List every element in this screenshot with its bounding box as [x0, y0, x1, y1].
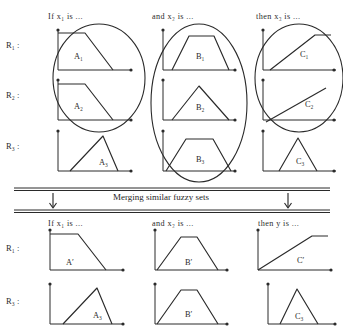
- top-plots-canvas: [0, 0, 343, 185]
- set-label-c-prime: C′: [297, 256, 304, 265]
- plot-a-prime: [48, 228, 124, 271]
- plot-a1: [56, 28, 132, 71]
- set-label-a-prime: A′: [66, 258, 74, 267]
- set-label-c2: C₂: [305, 100, 314, 109]
- set-label-a2: A₂: [74, 102, 83, 111]
- plot-a3: [56, 129, 132, 172]
- set-label-b-prime-bottom: B′: [185, 310, 192, 319]
- set-label-a3-bottom: A₃: [93, 311, 102, 320]
- band-arrow-right-icon: [285, 193, 292, 208]
- plot-b1: [161, 28, 236, 71]
- plot-c3: [261, 129, 336, 172]
- band-arrow-left-icon: [50, 193, 57, 208]
- bottom-plots-canvas: [0, 227, 343, 332]
- plot-a2: [56, 78, 132, 121]
- plot-b3: [161, 129, 236, 172]
- plot-c2: [261, 78, 336, 122]
- grouping-ellipse-a: [53, 24, 145, 132]
- plot-b2: [161, 78, 236, 121]
- fuzzy-rule-merging-figure: If x₁ is ... and x₂ is ... then x₃ is ..…: [0, 0, 343, 332]
- set-label-a3: A₃: [99, 158, 108, 167]
- set-label-b1: B₁: [196, 52, 205, 61]
- plot-b-prime-bottom: [153, 282, 228, 325]
- grouping-ellipse-c: [255, 24, 343, 132]
- set-label-c3-bottom: C₃: [295, 312, 304, 321]
- merging-band-label: Merging similar fuzzy sets: [113, 192, 209, 202]
- set-label-b-prime-top: B′: [185, 258, 192, 267]
- plot-c-prime: [256, 228, 332, 271]
- set-label-c1: C₁: [300, 50, 309, 59]
- set-label-a1: A₁: [74, 52, 83, 61]
- set-label-c3: C₃: [296, 157, 305, 166]
- plot-a3-bottom: [48, 282, 124, 325]
- set-label-b2: B₂: [196, 103, 205, 112]
- set-label-b3: B₃: [196, 155, 205, 164]
